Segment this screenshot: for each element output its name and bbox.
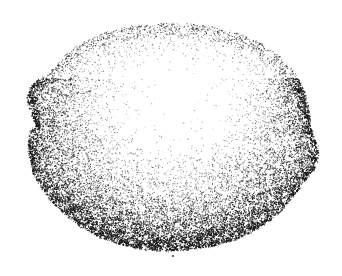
figure-container: Pen-and-ink stipple drawing of a rounded… — [0, 0, 342, 276]
stipple-specimen-drawing — [0, 0, 342, 276]
